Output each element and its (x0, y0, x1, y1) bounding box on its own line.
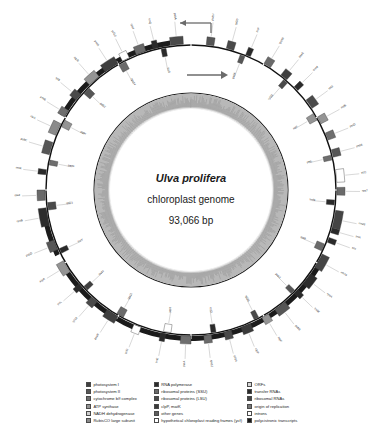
gene-leader-line (23, 169, 37, 171)
gene-label: psaC (297, 51, 304, 59)
gene-leader-line (285, 313, 294, 324)
gene-leader-line (314, 284, 325, 293)
gene-label: trnG (166, 67, 171, 74)
gene-label: rps18 (278, 36, 285, 45)
center-species-name: Ulva prolifera (156, 172, 226, 184)
legend-label: ribosomal proteins (SSU) (161, 388, 207, 395)
legend-item: ribosomal proteins (SSU) (154, 388, 242, 395)
gene-label: trnY (77, 238, 84, 244)
legend-item: introns (247, 410, 310, 417)
gene-label: rrn16 (340, 270, 348, 277)
legend-item: ribosomal RNAs (247, 395, 310, 402)
gene-leader-line (25, 218, 39, 221)
center-genome-length: 93,066 bp (169, 215, 214, 226)
gene-leader-line (129, 334, 134, 347)
legend-label: cytochrome b/f complex (93, 395, 136, 402)
gene-leader-line (345, 174, 359, 175)
legend-item: transfer RNAs (247, 388, 310, 395)
gene-box (38, 169, 47, 175)
gene-label: psbJ (274, 272, 282, 280)
gene-leader-line (61, 83, 72, 92)
gene-label: psbB (294, 324, 301, 332)
legend-item: hypothetical chloroplast reading frames … (154, 417, 242, 424)
gene-leader-line (341, 148, 355, 152)
gene-label: psbA (173, 13, 178, 20)
gene-label: psbD (25, 251, 33, 257)
legend-item: photosystem II (86, 388, 149, 395)
gene-leader-line (230, 340, 234, 354)
outer-gene-boxes (37, 36, 345, 344)
legend-item: photosystem I (86, 381, 149, 388)
legend-swatch (154, 404, 159, 409)
gene-box (306, 95, 319, 108)
gene-leader-line (232, 27, 236, 40)
gene-leader-line (79, 306, 88, 316)
gene-leader-line (270, 324, 277, 336)
legend-item: ribosomal proteins (LSU) (154, 395, 242, 402)
gene-leader-line (133, 31, 138, 44)
legend-swatch (86, 404, 91, 409)
gene-leader-line (337, 243, 350, 248)
transcription-arrow-clockwise (187, 71, 228, 79)
gene-leader-line (79, 63, 88, 73)
gene-box (49, 160, 58, 166)
legend-item: RubisCO large subunit (86, 417, 149, 424)
gene-label: psbC (20, 137, 28, 143)
legend-swatch (247, 382, 252, 387)
gene-label: rpl33 (267, 93, 274, 101)
gene-label: petD (349, 122, 356, 128)
gene-label: atpE (340, 103, 347, 109)
transcription-arrow-counterclockwise (180, 20, 211, 33)
legend-item: ORFs (247, 381, 310, 388)
legend-column: RNA polymeraseribosomal proteins (SSU)ri… (154, 381, 242, 424)
gene-box (337, 187, 345, 195)
gene-label: rpl36 (244, 295, 251, 303)
gene-label: rpl20 (234, 18, 240, 26)
legend-swatch (247, 396, 252, 401)
legend-item: clpP, matK (154, 403, 242, 410)
gene-label: psbK (231, 72, 237, 80)
gene-box (336, 169, 345, 183)
circular-genome-map: psbAtrnQrps4ycf12psaAatpBrpl5petBrbcLpsb… (0, 0, 382, 440)
legend-swatch (86, 389, 91, 394)
gene-label: trnN (309, 197, 315, 201)
gene-box (48, 202, 57, 210)
gene-label: ycf3 (124, 348, 130, 355)
gene-label: trnR (16, 166, 22, 171)
legend-swatch (154, 389, 159, 394)
legend-swatch (154, 411, 159, 416)
gene-label: psbZ (99, 101, 107, 108)
gene-leader-line (47, 102, 59, 109)
gene-label: petA (182, 361, 186, 367)
gene-leader-line (249, 334, 254, 347)
legend-swatch (154, 382, 159, 387)
gene-box (206, 37, 215, 46)
gene-box (326, 199, 334, 205)
legend-swatch (154, 418, 159, 423)
legend-swatch (86, 418, 91, 423)
gene-box (238, 55, 245, 64)
gene-label: rpl23 (66, 200, 73, 205)
gene-leader-line (343, 221, 357, 224)
legend-label: photosystem II (93, 388, 120, 395)
gene-leader-line (335, 128, 348, 133)
gene-leader-line (34, 248, 47, 253)
gene-box (170, 36, 184, 45)
gene-leader-line (272, 46, 279, 58)
legend-swatch (247, 411, 252, 416)
legend-label: ribosomal proteins (LSU) (161, 395, 207, 402)
gene-label: psbH (210, 13, 215, 20)
gene-box (180, 336, 191, 344)
gene-leader-line (150, 26, 153, 40)
gene-leader-line (252, 34, 257, 47)
gene-leader-line (116, 39, 122, 52)
gene-box (204, 335, 213, 344)
gene-label: trnD (209, 307, 214, 313)
gene-label: rps4 (130, 23, 136, 30)
gene-label: psbE (356, 143, 363, 149)
gene-box (331, 148, 341, 158)
gene-box (323, 155, 332, 162)
gene-leader-line (302, 73, 312, 83)
gene-label-layer: psbAtrnQrps4ycf12psaAatpBrpl5petBrbcLpsb… (14, 13, 368, 368)
gene-leader-line (100, 321, 108, 333)
